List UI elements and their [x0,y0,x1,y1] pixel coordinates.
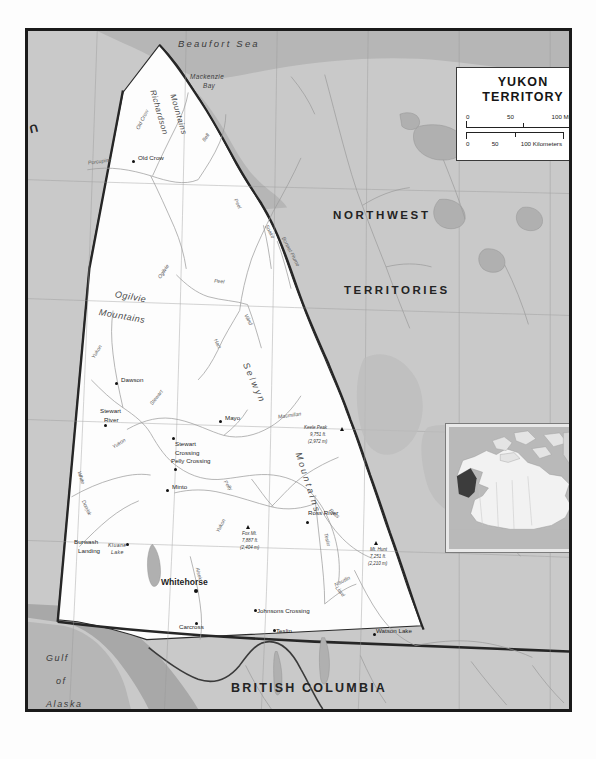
peak-label-fox-mt: Fox Mt. [242,531,257,537]
town-label-old-crow: Old Crow [138,155,164,162]
town-label-stewart-river-1: Stewart [100,408,121,415]
scale-km-0: 0 [466,140,469,147]
town-label-dawson: Dawson [121,377,143,384]
scale-bar-km-graphic [466,132,564,139]
scale-miles-0: 0 [466,113,469,120]
town-dot-burwash-landing [126,543,129,546]
water-label-kluane-lake-1: Kluane [108,543,127,549]
town-dot-whitehorse [194,589,198,593]
town-label-burwash-1: Burwash [74,539,98,546]
water-label-gulf-1: Gulf [46,653,69,663]
town-dot-ross-river [306,521,309,524]
map-canvas: UNITED STATES NORTHWEST TERRITORIES BRIT… [28,31,569,709]
map-frame: UNITED STATES NORTHWEST TERRITORIES BRIT… [25,28,572,712]
town-label-carcross: Carcross [179,624,204,631]
scale-miles-50: 50 [507,113,514,120]
water-label-kluane-lake-2: Lake [111,550,124,556]
town-dot-stewart-river [104,424,107,427]
scale-km-50: 50 [492,140,499,147]
town-label-pelly-crossing: Pelly Crossing [171,458,211,465]
peak-elev-keele-m: (2,972 m) [308,439,327,445]
region-label-territories: TERRITORIES [344,284,450,297]
town-dot-old-crow [132,160,135,163]
scale-miles-100: 100 Miles [552,113,573,120]
town-dot-dawson [115,382,118,385]
town-dot-mayo [219,420,222,423]
town-label-stewart-river-2: River [104,417,118,424]
water-label-gulf-2: of [56,676,67,686]
scale-bar-miles: 0 50 100 Miles [466,113,572,133]
town-label-mayo: Mayo [225,415,240,422]
town-label-stewart-crossing-1: Stewart [175,441,196,448]
town-label-minto: Minto [172,484,187,491]
region-label-northwest: NORTHWEST [333,209,431,222]
water-label-beaufort-sea: Beaufort Sea [178,39,260,50]
water-label-mackenzie-bay-1: Mackenzie [190,73,224,80]
river-label-peel-2: Peel [214,278,225,285]
town-label-stewart-crossing-2: Crossing [175,450,199,457]
map-title-legend-box: YUKON TERRITORY 0 50 100 Miles 0 [456,67,572,161]
peak-elev-hunt-ft: 7,251 ft. [370,554,386,560]
water-label-mackenzie-bay-2: Bay [203,82,215,89]
canada-locator-inset [445,423,572,553]
peak-elev-keele-ft: 9,751 ft. [310,432,326,438]
inset-usa [449,529,572,549]
peak-elev-fox-ft: 7,887 ft. [242,538,258,544]
peak-elev-fox-m: (2,404 m) [240,545,259,551]
town-dot-pelly-crossing [174,468,177,471]
canada-inset-svg [449,427,572,549]
peak-marker-keele-peak [340,427,344,431]
water-label-gulf-3: Alaska [46,699,83,709]
town-label-johnsons-crossing: Johnsons Crossing [257,608,310,615]
town-label-burwash-2: Landing [78,548,100,555]
town-label-teslin: Teslin [276,628,292,635]
town-dot-minto [166,489,169,492]
scale-bar-miles-graphic [466,121,572,128]
map-title-line-1: YUKON [466,75,572,90]
peak-label-mt-hunt: Mt. Hunt [370,547,387,553]
town-label-watson-lake: Watson Lake [376,628,412,635]
peak-marker-mt-hunt [374,541,378,545]
scale-km-100: 100 Kilometers [521,140,562,147]
map-title-line-2: TERRITORY [466,90,572,105]
peak-label-keele-peak: Keele Peak [304,425,327,431]
region-label-british-columbia: BRITISH COLUMBIA [231,681,387,695]
peak-marker-fox-mt [246,525,250,529]
peak-elev-hunt-m: (2,210 m) [368,561,387,567]
scale-bar-kilometers: 0 50 100 Kilometers [466,132,572,152]
map-page: UNITED STATES NORTHWEST TERRITORIES BRIT… [0,0,596,759]
